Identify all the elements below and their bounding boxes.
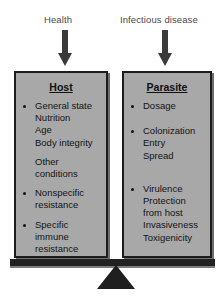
- host-group-other-conditions: Other conditions: [16, 156, 106, 180]
- list-item: Invasiveness: [143, 219, 210, 231]
- bullet-icon: [23, 224, 26, 227]
- arrow-shaft: [62, 30, 68, 54]
- host-group-nonspecific-resistance: Nonspecific resistance: [16, 187, 106, 211]
- list-item: Specific: [35, 219, 106, 231]
- panel-host: Host General state Nutrition Age Body in…: [14, 71, 108, 258]
- panel-parasite: Parasite Dosage Colonization Entry Sprea…: [122, 71, 212, 258]
- fulcrum-triangle: [97, 265, 135, 289]
- list-item: Virulence: [143, 183, 210, 195]
- list-item: Entry: [143, 137, 210, 149]
- list-item: Age: [35, 124, 106, 136]
- panel-host-title: Host: [16, 81, 106, 93]
- list-item: Protection: [143, 195, 210, 207]
- bullet-icon: [131, 188, 134, 191]
- list-item: resistance: [35, 243, 106, 255]
- panel-parasite-title: Parasite: [124, 81, 210, 93]
- bullet-icon: [23, 105, 26, 108]
- parasite-group-dosage: Dosage: [124, 100, 210, 112]
- list-item: General state: [35, 100, 106, 112]
- caption-health: Health: [44, 14, 72, 25]
- arrow-down-icon-disease: [158, 30, 172, 66]
- parasite-group-virulence: Virulence Protection from host Invasiven…: [124, 183, 210, 244]
- arrow-down-icon-health: [58, 30, 72, 66]
- list-item: resistance: [35, 199, 106, 211]
- list-item: conditions: [35, 168, 106, 180]
- bullet-icon: [131, 105, 134, 108]
- caption-infectious-disease: Infectious disease: [120, 14, 198, 25]
- parasite-group-colonization: Colonization Entry Spread: [124, 125, 210, 162]
- host-group-specific-immune-resistance: Specific immune resistance: [16, 219, 106, 256]
- arrow-shaft: [162, 30, 168, 54]
- list-item: immune: [35, 231, 106, 243]
- list-item: Nonspecific: [35, 187, 106, 199]
- arrow-head: [58, 53, 72, 66]
- bullet-icon: [23, 192, 26, 195]
- list-item: Body integrity: [35, 137, 106, 149]
- list-item: Dosage: [143, 100, 210, 112]
- diagram-canvas: Health Infectious disease Host General s…: [0, 0, 224, 307]
- arrow-head: [158, 53, 172, 66]
- list-item: Colonization: [143, 125, 210, 137]
- list-item: Spread: [143, 150, 210, 162]
- host-group-general-state: General state Nutrition Age Body integri…: [16, 100, 106, 149]
- list-item: from host: [143, 207, 210, 219]
- list-item: Other: [35, 156, 106, 168]
- bullet-icon: [131, 130, 134, 133]
- list-item: Toxigenicity: [143, 232, 210, 244]
- list-item: Nutrition: [35, 112, 106, 124]
